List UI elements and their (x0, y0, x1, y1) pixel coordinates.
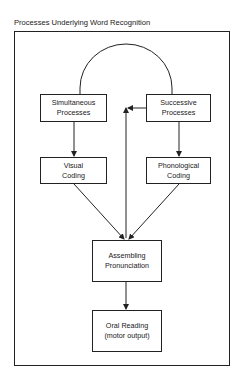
node-assembling-pronunciation: Assembling Pronunciation (92, 240, 162, 282)
node-label: Processes (162, 108, 196, 118)
node-visual-coding: Visual Coding (40, 157, 107, 184)
node-label: Phonological (158, 161, 199, 171)
node-oral-reading: Oral Reading (motor output) (92, 310, 162, 352)
node-phonological-coding: Phonological Coding (146, 157, 211, 184)
node-label: Assembling (108, 251, 145, 261)
node-label: Coding (167, 171, 190, 181)
node-label: Successive (160, 98, 196, 108)
node-label: Oral Reading (106, 321, 148, 331)
node-simultaneous-processes: Simultaneous Processes (40, 94, 107, 122)
node-label: Coding (62, 171, 85, 181)
node-label: Pronunciation (105, 261, 149, 271)
node-label: Processes (57, 108, 91, 118)
node-successive-processes: Successive Processes (146, 94, 211, 122)
arc-connector (80, 44, 172, 94)
node-label: (motor output) (104, 331, 149, 341)
node-label: Simultaneous (52, 98, 96, 108)
arrow-visual-assembling (74, 184, 124, 239)
arrow-phonological-assembling (129, 184, 179, 239)
node-label: Visual (64, 161, 83, 171)
